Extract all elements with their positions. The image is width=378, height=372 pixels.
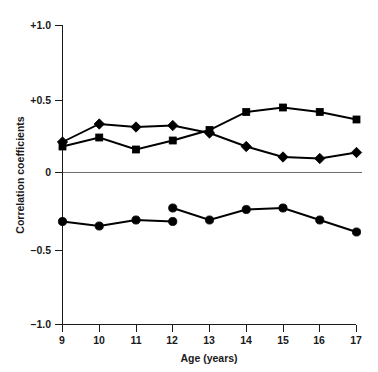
chart-background (0, 0, 378, 372)
x-tick-label: 16 (313, 334, 325, 346)
data-point-square (169, 137, 176, 144)
data-point-square (280, 104, 287, 111)
x-tick-label: 13 (203, 334, 215, 346)
data-point-square (96, 134, 103, 141)
x-tick-labels: 9 10 11 12 13 14 15 16 17 (59, 334, 362, 346)
data-point-circle (95, 222, 103, 230)
x-tick-label: 10 (93, 334, 105, 346)
data-point-circle (132, 216, 140, 224)
data-point-circle (279, 204, 287, 212)
data-point-square (133, 146, 140, 153)
data-point-circle (316, 216, 324, 224)
y-axis-title: Correlation coefficients (14, 116, 26, 233)
x-tick-label: 14 (240, 334, 252, 346)
chart-figure: +1.0 +0.5 0 –0.5 –1.0 9 10 11 12 13 14 (0, 0, 378, 372)
x-tick-label: 12 (166, 334, 178, 346)
y-tick-label: +1.0 (30, 19, 51, 31)
data-point-circle (205, 216, 213, 224)
data-point-circle (169, 204, 177, 212)
correlation-line-chart: +1.0 +0.5 0 –0.5 –1.0 9 10 11 12 13 14 (0, 0, 378, 372)
data-point-circle (58, 217, 66, 225)
data-point-circle (169, 217, 177, 225)
y-tick-label: +0.5 (30, 94, 51, 106)
x-tick-label: 15 (277, 334, 289, 346)
y-tick-label: 0 (45, 166, 51, 178)
data-point-square (243, 109, 250, 116)
x-tick-label: 11 (130, 334, 141, 346)
data-point-circle (352, 228, 360, 236)
data-point-square (316, 109, 323, 116)
x-tick-label: 9 (59, 334, 65, 346)
y-tick-label: –1.0 (31, 318, 52, 330)
y-tick-label: –0.5 (31, 244, 52, 256)
data-point-circle (242, 205, 250, 213)
data-point-square (353, 116, 360, 123)
x-tick-label: 17 (350, 334, 362, 346)
x-axis-title: Age (years) (180, 352, 237, 364)
